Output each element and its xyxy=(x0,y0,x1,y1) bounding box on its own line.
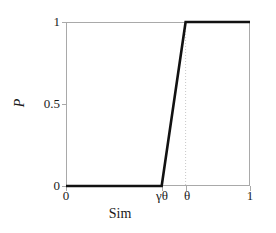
y-tick-mark-1 xyxy=(62,22,67,23)
x-axis-label: Sim xyxy=(0,207,276,221)
y-tick-mark-0.5 xyxy=(62,104,67,105)
plot-area xyxy=(66,22,250,186)
y-axis-label: P xyxy=(13,99,27,108)
chart-figure: 1 0.5 0 0 γθ θ 1 P Sim xyxy=(0,0,276,233)
